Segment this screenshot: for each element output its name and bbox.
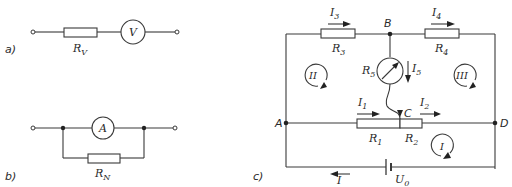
r2-label: R2 xyxy=(404,132,418,147)
resistor-rn-label: RN xyxy=(94,167,111,182)
junction xyxy=(61,126,65,130)
caption-c: c) xyxy=(253,170,263,183)
resistor-r2 xyxy=(400,119,422,128)
voltmeter-label: V xyxy=(129,26,138,39)
loop-ii-label: II xyxy=(308,70,318,81)
junction xyxy=(142,126,146,130)
node-d-dot xyxy=(493,121,498,126)
resistor-rn xyxy=(88,154,120,163)
resistor-rv xyxy=(64,28,97,37)
i5-arrowhead xyxy=(405,75,411,83)
terminal-left xyxy=(31,126,35,130)
i1-arrowhead xyxy=(372,111,380,117)
r3-label: R3 xyxy=(331,42,345,57)
wire-curved xyxy=(386,84,400,119)
terminal-left xyxy=(31,30,35,34)
u0-label: U0 xyxy=(395,173,409,187)
i3-label: I3 xyxy=(329,6,339,21)
i2-label: I2 xyxy=(419,96,429,111)
loop-arrowhead xyxy=(469,82,476,89)
r1-label: R1 xyxy=(368,132,382,147)
i-arrowhead xyxy=(330,171,338,177)
caption-b: b) xyxy=(5,170,16,183)
terminal-right xyxy=(173,126,177,130)
i3-arrowhead xyxy=(343,21,351,27)
ammeter-label: A xyxy=(98,122,107,135)
node-b-dot xyxy=(388,32,393,37)
diagram-a-voltmeter-series: V RV a) xyxy=(5,20,179,57)
loop-iii-marker: III xyxy=(454,64,476,89)
i1-label: I1 xyxy=(357,96,367,111)
r4-label: R4 xyxy=(434,42,448,57)
node-a-label: A xyxy=(274,117,283,130)
i4-arrowhead xyxy=(447,21,455,27)
node-a-dot xyxy=(284,121,289,126)
resistor-r3 xyxy=(321,29,355,38)
diagram-b-ammeter-shunt: A RN b) xyxy=(5,117,177,183)
resistor-r4 xyxy=(425,29,459,38)
diagram-c-bridge-circuit: B A C D R3 R4 R5 R1 R2 I3 I4 I5 I1 I2 I … xyxy=(253,6,508,187)
i4-label: I4 xyxy=(431,6,441,21)
node-c-label: C xyxy=(404,107,412,120)
resistor-r1 xyxy=(357,119,400,128)
loop-ii-marker: II xyxy=(305,64,327,89)
loop-arrowhead xyxy=(443,152,451,159)
resistor-rv-label: RV xyxy=(72,42,88,57)
node-b-label: B xyxy=(384,17,392,30)
loop-iii-label: III xyxy=(455,70,469,81)
terminal-right xyxy=(175,30,179,34)
node-d-label: D xyxy=(500,117,508,130)
i2-arrowhead xyxy=(434,111,441,117)
loop-i-marker: I xyxy=(431,134,453,159)
r5-label: R5 xyxy=(361,64,375,79)
loop-arrowhead xyxy=(320,82,327,89)
circuit-figure: V RV a) A RN b) xyxy=(0,0,512,187)
i5-label: I5 xyxy=(411,62,421,77)
loop-i-label: I xyxy=(439,141,445,152)
caption-a: a) xyxy=(5,43,16,56)
